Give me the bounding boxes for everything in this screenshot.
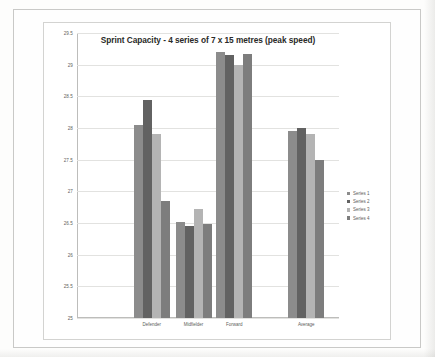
bar [297,128,306,318]
bar [315,160,324,318]
legend-label: Series 4 [353,216,370,221]
legend-swatch [347,208,350,211]
bar-group: Defender [132,33,172,318]
legend-label: Series 2 [353,199,370,204]
bar [243,54,252,318]
bar [152,134,161,318]
bar [216,52,225,318]
legend-item: Series 3 [347,207,369,212]
scanned-page: Sprint Capacity - 4 series of 7 x 15 met… [0,0,435,357]
gridline [77,318,339,319]
bar [185,226,194,318]
bar [306,134,315,318]
y-tick-label: 28.5 [64,94,73,99]
bar-group: Forward [214,33,254,318]
y-tick-label: 25 [68,316,73,321]
bar [161,201,170,318]
bar [134,125,143,318]
bar-group: Average [286,33,326,318]
legend-swatch [347,216,350,219]
y-tick-label: 28 [68,126,73,131]
chart-legend: Series 1Series 2Series 3Series 4 [347,191,369,221]
bar [234,65,243,318]
bars-layer: DefenderMidfielderForwardAverage [77,33,339,318]
bar [225,55,234,318]
category-label: Defender [142,322,161,327]
y-tick-label: 27.5 [64,157,73,162]
bar [194,209,203,318]
legend-item: Series 1 [347,191,369,196]
scan-edge-shadow [424,0,435,357]
category-label: Average [298,322,315,327]
y-tick-label: 29.5 [64,31,73,36]
bar-group: Midfielder [174,33,214,318]
bar [288,131,297,318]
y-tick-label: 29 [68,62,73,67]
bar [176,222,185,318]
bar [203,224,212,318]
plot-area: 29.52928.52827.52726.52625.525 DefenderM… [77,33,339,318]
legend-label: Series 3 [353,207,370,212]
legend-label: Series 1 [353,191,370,196]
bar [143,100,152,319]
chart-frame: Sprint Capacity - 4 series of 7 x 15 met… [43,22,391,340]
y-tick-label: 26.5 [64,221,73,226]
legend-item: Series 4 [347,216,369,221]
category-label: Midfielder [184,322,204,327]
legend-swatch [347,192,350,195]
legend-item: Series 2 [347,199,369,204]
category-label: Forward [226,322,243,327]
legend-swatch [347,200,350,203]
y-tick-label: 26 [68,252,73,257]
scan-edge-shadow-bottom [0,349,435,357]
y-tick-label: 27 [68,189,73,194]
y-tick-label: 25.5 [64,284,73,289]
